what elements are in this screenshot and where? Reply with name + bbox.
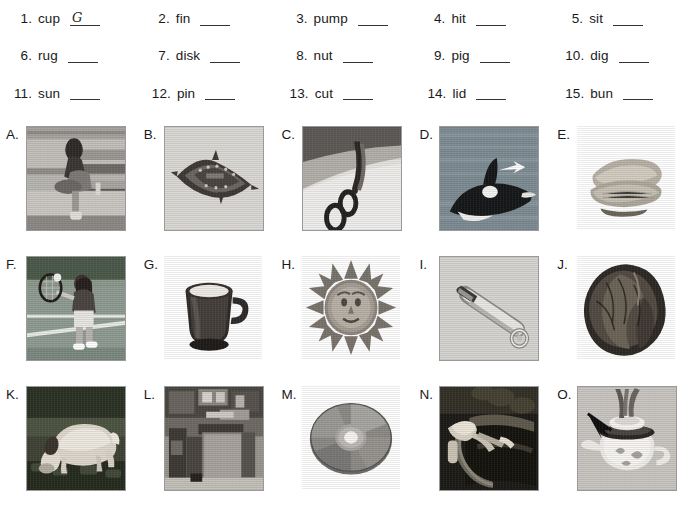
word-number: 15. [565, 86, 584, 101]
answer-blank[interactable] [476, 86, 506, 100]
picture-item: A. [0, 120, 138, 250]
picture-label: G. [144, 256, 159, 272]
word-number: 2. [152, 11, 170, 26]
tennis-player-hitting-photo [26, 256, 126, 361]
word-number: 6. [14, 48, 32, 63]
walnut-photo [577, 256, 675, 359]
picture-item: J. [551, 250, 689, 380]
picture-item: O. [551, 380, 689, 510]
answer-blank[interactable] [343, 86, 373, 100]
answer-blank[interactable] [613, 12, 643, 26]
answer-blank[interactable] [200, 12, 230, 26]
word-item: 1.cupG [0, 11, 138, 26]
picture-label: B. [144, 126, 159, 142]
word-number: 5. [565, 11, 583, 26]
word-text: hit [451, 11, 466, 26]
word-number: 13. [290, 86, 309, 101]
word-item: 6.rug [0, 48, 138, 63]
word-text: cut [315, 86, 333, 101]
picture-grid: A. B. [0, 120, 689, 514]
answer-blank[interactable] [619, 49, 649, 63]
word-number: 10. [565, 48, 584, 63]
word-item: 12.pin [138, 86, 276, 101]
picture-item: C. [276, 120, 414, 250]
word-item: 5.sit [551, 11, 689, 26]
picture-item: F. [0, 250, 138, 380]
word-list: 1.cupG2.fin3.pump4.hit5.sit6.rug7.disk8.… [0, 0, 689, 112]
answer-blank[interactable] [358, 12, 388, 26]
answer-blank[interactable] [623, 86, 653, 100]
picture-label: F. [6, 256, 21, 272]
word-text: nut [314, 48, 333, 63]
word-item: 8.nut [276, 48, 414, 63]
picture-item: E. [551, 120, 689, 250]
picture-label: K. [6, 386, 21, 402]
word-item: 10.dig [551, 48, 689, 63]
compact-disk-photo [302, 386, 400, 489]
picture-label: D. [419, 126, 434, 142]
scissors-cutting-photo [302, 126, 402, 231]
answer-blank[interactable] [205, 86, 235, 100]
picture-item: H. [276, 250, 414, 380]
picture-item: G. [138, 250, 276, 380]
word-number: 3. [290, 11, 308, 26]
word-item: 14.lid [413, 86, 551, 101]
word-item: 15.bun [551, 86, 689, 101]
cup-photo [164, 256, 262, 359]
answer-blank[interactable] [68, 49, 98, 63]
picture-label: N. [419, 386, 434, 402]
picture-item: I. [413, 250, 551, 380]
word-text: sun [38, 86, 60, 101]
word-number: 7. [152, 48, 170, 63]
word-item: 4.hit [413, 11, 551, 26]
answer-blank[interactable]: G [70, 12, 100, 26]
word-text: fin [176, 11, 191, 26]
word-item: 2.fin [138, 11, 276, 26]
answer-blank[interactable] [210, 49, 240, 63]
girl-sitting-on-bench-photo [26, 126, 126, 231]
picture-label: I. [419, 256, 434, 272]
word-number: 12. [152, 86, 171, 101]
word-text: bun [590, 86, 613, 101]
picture-item: N. [413, 380, 551, 510]
word-item: 3.pump [276, 11, 414, 26]
handwritten-answer: G [72, 11, 82, 24]
answer-blank[interactable] [70, 86, 100, 100]
sun-ornament-photo [302, 256, 400, 359]
picture-label: A. [6, 126, 21, 142]
answer-blank[interactable] [480, 49, 510, 63]
picture-label: L. [144, 386, 159, 402]
word-text: rug [38, 48, 58, 63]
safety-pin-photo [439, 256, 539, 361]
picture-label: E. [557, 126, 572, 142]
word-number: 4. [427, 11, 445, 26]
word-text: pump [314, 11, 348, 26]
picture-item: D. [413, 120, 551, 250]
picture-item: M. [276, 380, 414, 510]
word-text: pin [177, 86, 195, 101]
rug-photo [164, 126, 264, 231]
word-text: disk [176, 48, 200, 63]
word-text: dig [590, 48, 608, 63]
answer-blank[interactable] [476, 12, 506, 26]
picture-label: C. [282, 126, 297, 142]
word-number: 9. [427, 48, 445, 63]
word-number: 8. [290, 48, 308, 63]
word-text: sit [589, 11, 603, 26]
word-item: 9.pig [413, 48, 551, 63]
word-text: pig [451, 48, 469, 63]
picture-label: M. [282, 386, 297, 402]
picture-item: L. [138, 380, 276, 510]
word-number: 11. [14, 86, 32, 101]
pump-photo [164, 386, 264, 491]
picture-label: O. [557, 386, 572, 402]
word-item: 7.disk [138, 48, 276, 63]
picture-label: H. [282, 256, 297, 272]
word-text: lid [452, 86, 466, 101]
answer-blank[interactable] [343, 49, 373, 63]
picture-item: B. [138, 120, 276, 250]
pig-photo [26, 386, 126, 491]
hand-digging-photo [439, 386, 539, 491]
word-number: 1. [14, 11, 32, 26]
teapot-lid-photo [577, 386, 677, 491]
